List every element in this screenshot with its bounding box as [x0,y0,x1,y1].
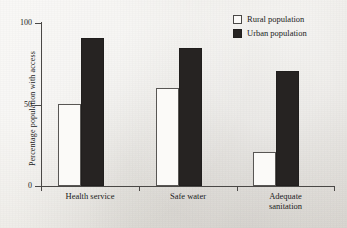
bar-rural-safe-water [156,88,179,186]
legend-swatch-urban-icon [233,29,242,38]
bar-chart: 100 50 0 Percentage population with acce… [0,0,347,228]
legend-item-rural-population: Rural population [233,13,307,25]
x-axis-line [41,186,334,187]
bar-rural-health-service [58,104,81,186]
legend-swatch-rural-icon [233,15,242,24]
y-axis-line [41,22,42,187]
x-category-label-health-service: Health service [41,191,139,201]
y-tick-label-100: 100 [6,19,32,27]
bar-urban-safe-water [179,48,202,186]
x-tick-mark-3 [334,186,335,191]
y-axis-title: Percentage population with access [28,29,37,189]
bar-urban-adequate-sanitation [276,71,299,186]
bar-urban-health-service [81,38,104,186]
legend-label-urban-population: Urban population [247,29,307,38]
legend-item-urban-population: Urban population [233,27,307,39]
x-category-label-line-2: sanitation [237,201,334,211]
x-category-label-adequate-sanitation: Adequate sanitation [237,191,334,211]
chart-legend: Rural population Urban population [233,13,307,41]
x-category-label-safe-water: Safe water [139,191,237,201]
bar-rural-adequate-sanitation [253,152,276,186]
x-category-label-line-1: Adequate [237,191,334,201]
legend-label-rural-population: Rural population [247,15,304,24]
y-tick-mark-100 [35,23,41,24]
